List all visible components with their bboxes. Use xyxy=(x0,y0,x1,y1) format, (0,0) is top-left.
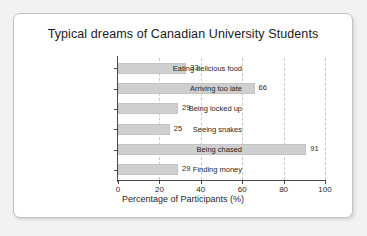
x-axis-tick xyxy=(201,180,202,184)
y-axis-tick xyxy=(114,109,118,110)
gridline xyxy=(284,58,285,180)
bar xyxy=(118,124,170,135)
x-axis-tick xyxy=(325,180,326,184)
gridline xyxy=(242,58,243,180)
gridline xyxy=(201,58,202,180)
chart-panel: Typical dreams of Canadian University St… xyxy=(13,13,353,218)
bar-value-label: 25 xyxy=(174,123,182,135)
category-label: Being chased xyxy=(197,144,242,155)
category-label: Arriving too late xyxy=(190,83,242,94)
bar-value-label: 91 xyxy=(310,143,318,155)
x-axis-title: Percentage of Participants (%) xyxy=(14,194,352,204)
x-axis-tick-label: 80 xyxy=(279,185,288,194)
x-axis-tick-label: 100 xyxy=(318,185,331,194)
y-axis-tick xyxy=(114,89,118,90)
category-label: Finding money xyxy=(193,164,242,175)
x-axis-tick xyxy=(159,180,160,184)
x-axis-tick-label: 20 xyxy=(155,185,164,194)
gridline xyxy=(159,58,160,180)
bar xyxy=(118,103,178,114)
x-axis-tick-label: 60 xyxy=(238,185,247,194)
x-axis-tick xyxy=(118,180,119,184)
y-axis-tick xyxy=(114,150,118,151)
x-axis-tick xyxy=(242,180,243,184)
x-axis-tick-label: 0 xyxy=(116,185,120,194)
y-axis-tick xyxy=(114,68,118,69)
x-axis-line xyxy=(117,180,325,181)
y-axis-tick xyxy=(114,170,118,171)
gridline xyxy=(325,58,326,180)
bar-value-label: 66 xyxy=(259,82,267,94)
bar xyxy=(118,164,178,175)
category-label: Seeing snakes xyxy=(193,124,242,135)
x-axis-tick-label: 40 xyxy=(196,185,205,194)
y-axis-line xyxy=(117,56,118,182)
x-axis-tick xyxy=(284,180,285,184)
category-label: Being locked up xyxy=(189,103,242,114)
category-label: Eating delicious food xyxy=(173,63,242,74)
plot-area: 336629259129 020406080100 xyxy=(118,58,325,180)
bar-value-label: 29 xyxy=(182,163,190,175)
y-axis-tick xyxy=(114,129,118,130)
gridlines xyxy=(118,58,325,180)
chart-title: Typical dreams of Canadian University St… xyxy=(14,27,352,41)
